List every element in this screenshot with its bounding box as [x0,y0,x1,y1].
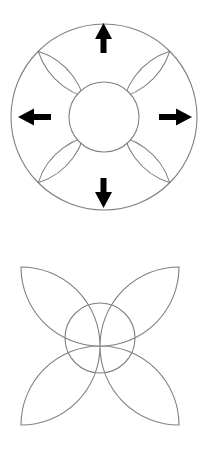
figure-four-pointed-star [0,230,210,451]
star-outline [21,267,179,425]
inner-circle [69,82,139,152]
figure-circle-with-lobes [0,0,210,230]
figure-stack [0,0,210,451]
